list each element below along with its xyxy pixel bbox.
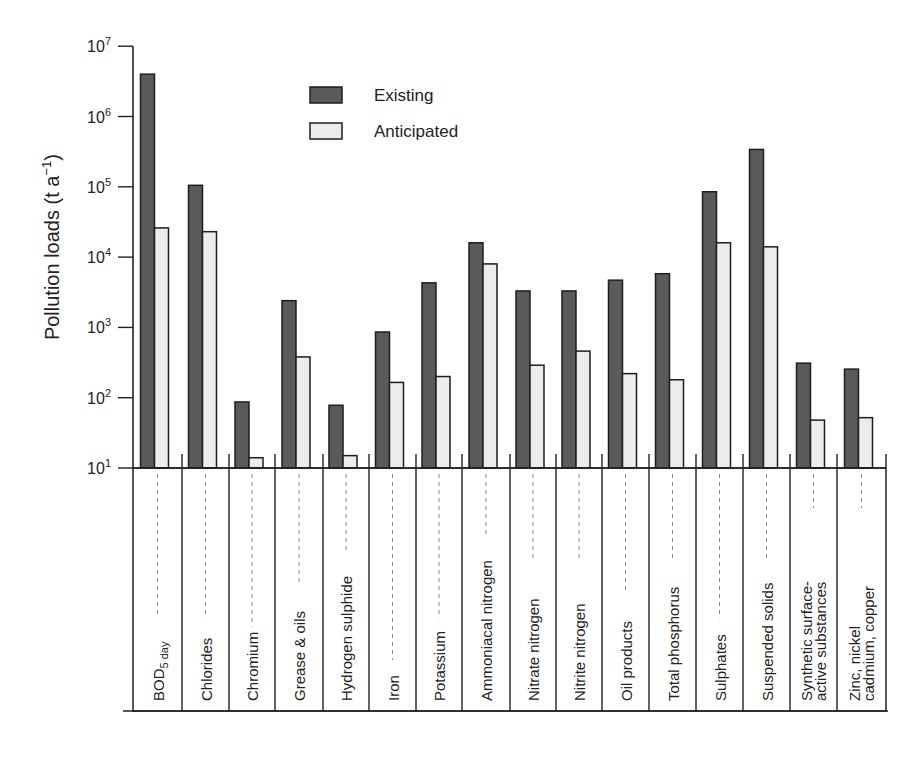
legend-swatch: [310, 123, 342, 139]
category-label: Total phosphorus: [665, 587, 682, 701]
bar-group: [376, 332, 404, 468]
bar-existing: [469, 243, 483, 468]
legend-label: Anticipated: [374, 122, 458, 141]
bar-anticipated: [390, 382, 404, 468]
y-tick-label: 104: [87, 246, 111, 266]
bar-anticipated: [670, 380, 684, 468]
bar-group: [469, 243, 497, 468]
bars: [141, 74, 873, 468]
bar-anticipated: [483, 264, 497, 468]
category-label: cadmium, copper: [860, 586, 877, 701]
category-label: Chlorides: [198, 638, 215, 701]
bar-group: [845, 369, 873, 468]
bar-anticipated: [530, 365, 544, 468]
bar-group: [189, 185, 217, 468]
bar-existing: [235, 402, 249, 468]
bar-anticipated: [811, 420, 825, 468]
bar-existing: [422, 283, 436, 468]
bar-group: [329, 405, 357, 468]
bar-existing: [750, 149, 764, 468]
bar-group: [282, 301, 310, 468]
y-tick-label: 106: [87, 106, 111, 126]
bar-anticipated: [155, 228, 169, 468]
legend-swatch: [310, 87, 342, 103]
bar-existing: [141, 74, 155, 468]
bar-anticipated: [436, 377, 450, 468]
bar-existing: [609, 280, 623, 468]
category-label: active substances: [812, 582, 829, 701]
category-label: Nitrite nitrogen: [571, 603, 588, 701]
bar-group: [750, 149, 778, 468]
bar-existing: [376, 332, 390, 468]
bar-existing: [189, 185, 203, 468]
bar-anticipated: [717, 243, 731, 468]
bar-existing: [656, 274, 670, 468]
category-label: Chromium: [244, 632, 261, 701]
bar-existing: [516, 291, 530, 468]
y-tick-label: 103: [87, 316, 111, 336]
bar-existing: [703, 192, 717, 468]
bar-existing: [562, 291, 576, 468]
bar-anticipated: [203, 232, 217, 468]
y-tick-label: 102: [87, 387, 111, 407]
y-tick-label: 101: [87, 457, 111, 477]
category-label: Suspended solids: [759, 583, 776, 701]
legend: ExistingAnticipated: [310, 86, 458, 141]
bar-existing: [845, 369, 859, 468]
bar-group: [516, 291, 544, 468]
bar-group: [609, 280, 637, 468]
y-axis-title: Pollution loads (t a−1): [39, 154, 63, 340]
y-tick-label: 105: [87, 176, 111, 196]
category-label: Hydrogen sulphide: [338, 576, 355, 701]
bar-group: [235, 402, 263, 468]
category-label: Grease & oils: [291, 611, 308, 701]
category-label: Oil products: [618, 621, 635, 701]
bar-group: [703, 192, 731, 468]
y-axis-title-text: Pollution loads (t a−1): [39, 154, 63, 340]
bar-anticipated: [576, 351, 590, 468]
bar-group: [141, 74, 169, 468]
bar-anticipated: [764, 247, 778, 468]
bar-group: [562, 291, 590, 468]
y-tick-label: 107: [87, 35, 111, 55]
bar-group: [422, 283, 450, 468]
bar-chart: 101102103104105106107 Pollution loads (t…: [0, 0, 918, 757]
bar-anticipated: [249, 458, 263, 468]
category-label: BOD5 day: [150, 641, 170, 701]
bar-anticipated: [343, 456, 357, 468]
category-label: Ammoniacal nitrogen: [478, 560, 495, 701]
category-label: Nitrate nitrogen: [525, 598, 542, 701]
category-label: Potassium: [431, 631, 448, 701]
legend-item-existing: Existing: [310, 86, 434, 105]
bar-group: [797, 363, 825, 468]
bar-existing: [797, 363, 811, 468]
bar-existing: [282, 301, 296, 468]
bar-anticipated: [296, 357, 310, 468]
category-label: Iron: [385, 675, 402, 701]
legend-item-anticipated: Anticipated: [310, 122, 458, 141]
category-label: Sulphates: [712, 634, 729, 701]
y-axis: 101102103104105106107: [87, 35, 133, 477]
bar-group: [656, 274, 684, 468]
bar-anticipated: [859, 418, 873, 468]
bar-anticipated: [623, 374, 637, 468]
legend-label: Existing: [374, 86, 434, 105]
category-label-table: BOD5 dayChloridesChromiumGrease & oilsHy…: [123, 468, 888, 711]
bar-existing: [329, 405, 343, 468]
